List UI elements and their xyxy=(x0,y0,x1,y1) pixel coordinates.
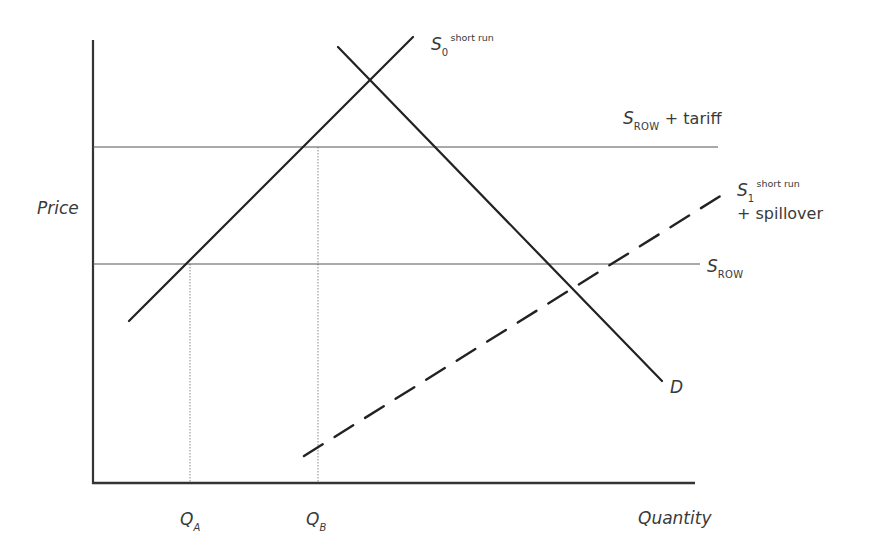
s0-label-sub: 0 xyxy=(442,47,449,58)
srow-label: SROW xyxy=(707,256,743,276)
srow-label-main: S xyxy=(707,256,718,276)
s0-label-sup: short run xyxy=(450,32,493,43)
s1-spillover-curve xyxy=(304,195,722,456)
s1-label: S1short run xyxy=(737,180,800,200)
srow-tariff-label-suffix: + tariff xyxy=(665,109,722,128)
qa-label-main: Q xyxy=(180,509,193,529)
s1-label-main: S xyxy=(737,180,748,200)
srow-tariff-label-sub: ROW xyxy=(634,121,660,132)
srow-label-sub: ROW xyxy=(718,269,744,280)
srow-tariff-label: SROW + tariff xyxy=(623,108,721,128)
demand-label: D xyxy=(670,377,683,397)
s1-label-line2: + spillover xyxy=(737,204,823,223)
qa-label-sub: A xyxy=(193,522,200,533)
s0-label-main: S xyxy=(431,34,442,54)
price-axis-label: Price xyxy=(37,198,79,218)
s1-label-sub: 1 xyxy=(748,193,755,204)
qa-label: QA xyxy=(180,509,201,529)
qb-label-sub: B xyxy=(319,522,326,533)
qb-label: QB xyxy=(306,509,327,529)
quantity-axis-label: Quantity xyxy=(638,508,711,528)
s1-label-sup: short run xyxy=(756,178,799,189)
srow-tariff-label-main: S xyxy=(623,108,634,128)
qb-label-main: Q xyxy=(306,509,319,529)
demand-curve xyxy=(338,47,662,381)
s0-label: S0short run xyxy=(431,34,494,54)
